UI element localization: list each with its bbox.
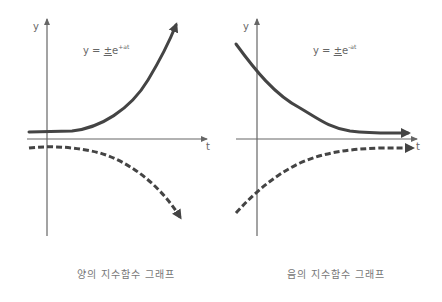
equation-lhs: y = bbox=[83, 45, 104, 56]
right-dashed-curve bbox=[236, 148, 412, 213]
right-solid-curve bbox=[236, 44, 408, 133]
right-caption: 음의 지수함수 그래프 bbox=[287, 266, 385, 281]
left-t-axis-label: t bbox=[206, 141, 210, 152]
left-caption: 양의 지수함수 그래프 bbox=[77, 266, 175, 281]
left-solid-curve bbox=[29, 25, 176, 132]
right-y-axis-label: y bbox=[243, 21, 249, 32]
left-dashed-curve bbox=[29, 147, 180, 217]
plus-minus: ± bbox=[104, 45, 112, 56]
exponential-graphs-diagram bbox=[0, 0, 442, 302]
plus-minus: ± bbox=[334, 45, 342, 56]
right-equation: y = ±e-at bbox=[313, 44, 356, 56]
equation-exponent: -at bbox=[348, 43, 356, 50]
right-t-axis-label: t bbox=[416, 141, 420, 152]
left-equation: y = ±e+at bbox=[83, 44, 129, 56]
equation-lhs: y = bbox=[313, 45, 334, 56]
left-y-axis-label: y bbox=[33, 21, 39, 32]
equation-exponent: +at bbox=[118, 43, 129, 50]
